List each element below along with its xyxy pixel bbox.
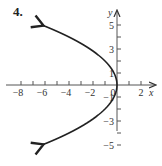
x-tick-label: −4: [61, 87, 72, 98]
chart: −8−6−4−202531−1−3−5xy: [0, 0, 162, 166]
y-axis-label: y: [107, 7, 113, 18]
x-tick-label: −8: [13, 87, 24, 98]
y-tick-label: −5: [103, 140, 114, 151]
x-tick-label: 2: [139, 87, 144, 98]
y-tick-label: −3: [103, 116, 114, 127]
x-tick-label: −6: [37, 87, 48, 98]
x-tick-label: −2: [85, 87, 96, 98]
x-axis-label: x: [148, 87, 154, 98]
y-tick-label: 5: [109, 20, 114, 31]
y-tick-label: 3: [109, 44, 114, 55]
